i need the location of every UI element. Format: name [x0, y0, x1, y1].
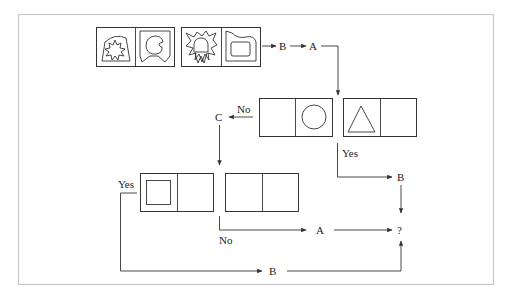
- middle-yes-label: Yes: [342, 147, 358, 159]
- bottom-no-target-a: A: [316, 224, 324, 236]
- result-question-mark: ?: [397, 224, 402, 236]
- top-op-a: A: [309, 40, 317, 52]
- bottom-yes-target-b: B: [269, 265, 276, 277]
- bottom-no-label: No: [219, 234, 233, 246]
- middle-no-target-c: C: [215, 111, 222, 123]
- middle-no-label: No: [237, 103, 251, 115]
- bottom-pair-2: [226, 174, 299, 212]
- middle-yes-target-b: B: [397, 171, 404, 183]
- middle-pair-1: [260, 99, 333, 137]
- top-pair-2: [182, 28, 261, 67]
- flowchart-diagram: B A No C Yes B Yes B No A ?: [0, 0, 506, 295]
- bottom-pair-1: [141, 174, 214, 212]
- top-pair-1: [97, 28, 175, 67]
- top-op-b: B: [279, 40, 286, 52]
- middle-pair-2: [344, 99, 417, 137]
- bottom-yes-label: Yes: [118, 178, 134, 190]
- arrow-no-to-a: [220, 216, 307, 230]
- arrow-down-to-middle: [321, 46, 338, 95]
- arrow-b-up-to-result: [287, 241, 401, 271]
